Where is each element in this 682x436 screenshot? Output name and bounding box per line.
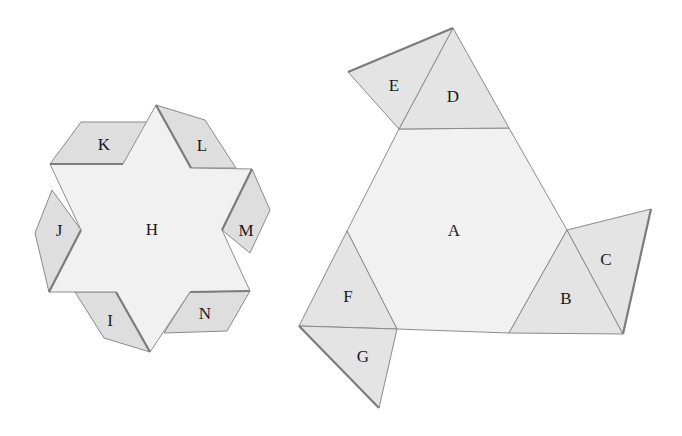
label-i: I	[107, 311, 113, 330]
left-net: K L M N I J H	[35, 105, 270, 352]
right-net: E D A C B F G	[299, 28, 651, 408]
label-m: M	[238, 221, 253, 240]
label-g: G	[357, 347, 369, 366]
label-l: L	[197, 136, 207, 155]
label-j: J	[56, 221, 63, 240]
triangle-g	[299, 326, 397, 408]
label-b: B	[560, 289, 571, 308]
label-a: A	[448, 221, 461, 240]
label-k: K	[98, 135, 111, 154]
label-n: N	[199, 304, 211, 323]
net-diagram: K L M N I J H E D A C B F G	[0, 0, 682, 436]
label-c: C	[600, 250, 611, 269]
label-f: F	[343, 287, 352, 306]
label-e: E	[389, 76, 399, 95]
fold-edge-n	[190, 291, 250, 292]
label-h: H	[146, 220, 158, 239]
label-d: D	[447, 87, 459, 106]
